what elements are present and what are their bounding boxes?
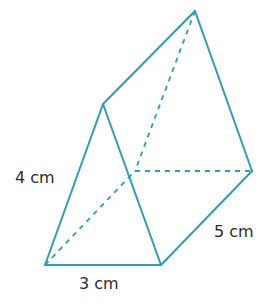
edge-front-right	[103, 104, 161, 265]
label-length-5cm: 5 cm	[214, 222, 254, 241]
hidden-edge-back-left	[135, 11, 195, 171]
prism-diagram	[0, 0, 280, 308]
edge-back-right	[195, 11, 252, 171]
edge-top-ridge	[103, 11, 195, 104]
hidden-edge-bottom-left-length	[45, 171, 135, 265]
edge-bottom-right-length	[161, 171, 252, 265]
label-side-4cm: 4 cm	[15, 168, 55, 187]
label-base-3cm: 3 cm	[79, 274, 119, 293]
